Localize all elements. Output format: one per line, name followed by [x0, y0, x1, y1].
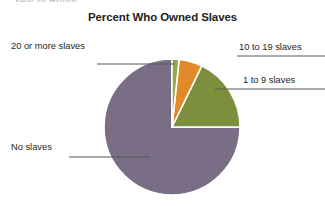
slice-label-20-or-more: 20 or more slaves: [11, 41, 97, 52]
pie-svg: [0, 0, 325, 222]
slice-label-1-to-9: 1 to 9 slaves: [243, 75, 295, 86]
slice-label-10-to-19: 10 to 19 slaves: [239, 42, 302, 53]
pie-chart-figure: Year of Honor Percent Who Owned Slaves 2…: [0, 0, 325, 222]
slice-label-no-slaves: No slaves: [11, 142, 52, 153]
pie-graphic: [0, 0, 325, 222]
